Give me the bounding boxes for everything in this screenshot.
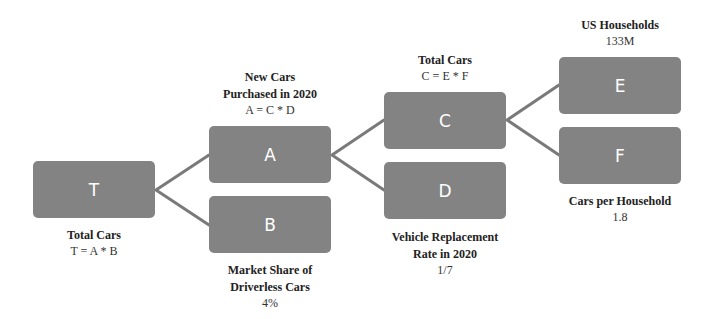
node-f: F [559,127,681,184]
label-e: US Households 133M [530,17,710,49]
label-f-value: 1.8 [530,210,710,225]
node-e-letter: E [615,76,626,96]
node-d: D [384,162,506,219]
label-d-title-2: Rate in 2020 [355,246,535,263]
label-d-title-1: Vehicle Replacement [355,229,535,246]
label-f-title: Cars per Household [530,193,710,210]
node-f-letter: F [615,146,625,166]
connector-c-e-f [507,85,559,155]
label-a-title-2: Purchased in 2020 [180,86,360,103]
label-a-title-1: New Cars [180,69,360,86]
label-t: Total Cars T = A * B [4,227,184,259]
label-t-title: Total Cars [4,227,184,244]
label-f: Cars per Household 1.8 [530,193,710,225]
node-a: A [209,126,331,183]
node-b: B [209,196,331,253]
label-t-value: T = A * B [4,244,184,259]
label-b: Market Share of Driverless Cars 4% [180,262,360,311]
node-b-letter: B [264,215,276,235]
node-e: E [559,57,681,114]
node-t: T [33,161,155,218]
connector-a-c-d [332,120,384,190]
label-c-title: Total Cars [355,52,535,69]
connector-t-a-b [156,155,209,225]
label-d-value: 1/7 [355,263,535,278]
label-e-value: 133M [530,34,710,49]
label-a-value: A = C * D [180,103,360,118]
label-b-title-2: Driverless Cars [180,279,360,296]
label-d: Vehicle Replacement Rate in 2020 1/7 [355,229,535,278]
label-b-title-1: Market Share of [180,262,360,279]
node-c-letter: C [439,111,451,131]
label-b-value: 4% [180,296,360,311]
node-a-letter: A [264,145,276,165]
label-e-title: US Households [530,17,710,34]
label-a: New Cars Purchased in 2020 A = C * D [180,69,360,118]
node-d-letter: D [438,181,451,201]
node-c: C [384,92,506,149]
label-c: Total Cars C = E * F [355,52,535,84]
node-t-letter: T [89,180,99,200]
label-c-value: C = E * F [355,69,535,84]
